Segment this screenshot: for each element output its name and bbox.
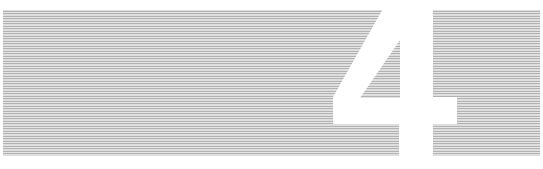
striped-numeral-graphic: 4: [0, 0, 543, 169]
striped-panel: [3, 10, 540, 156]
numeral-four-icon: [0, 0, 543, 169]
